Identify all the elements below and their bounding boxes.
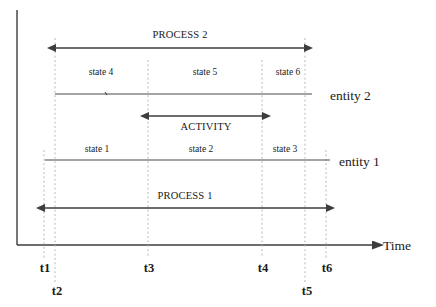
entity-label-entity-1: entity 1: [339, 155, 380, 169]
diagram-canvas: PROCESS 2 state 4 state 5 state 6 entity…: [0, 0, 436, 307]
entity-label-entity-2: entity 2: [330, 89, 371, 103]
process2-label: PROCESS 2: [152, 30, 207, 41]
state-label-state-1: state 1: [85, 145, 110, 155]
tick-label-t2: t2: [52, 285, 62, 298]
tick-label-t1: t1: [40, 262, 50, 275]
tick-label-t3: t3: [144, 262, 154, 275]
state-label-state-2: state 2: [189, 145, 214, 155]
process1-label: PROCESS 1: [157, 191, 212, 202]
time-axis-label: Time: [383, 239, 411, 253]
tick-label-t4: t4: [258, 262, 268, 275]
tick-label-t6: t6: [322, 262, 332, 275]
state-label-state-6: state 6: [276, 68, 301, 78]
activity-label: ACTIVITY: [180, 122, 231, 133]
state-label-state-4: state 4: [89, 68, 114, 78]
state-label-state-5: state 5: [193, 68, 218, 78]
state-label-state-3: state 3: [273, 145, 298, 155]
tick-label-t5: t5: [302, 285, 312, 298]
